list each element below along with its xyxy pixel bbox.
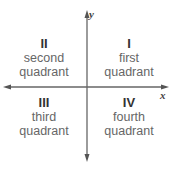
quadrant-name-line2: quadrant <box>9 124 79 138</box>
x-axis-left-arrow-icon <box>3 85 11 90</box>
quadrant-iii: III third quadrant <box>9 96 79 138</box>
quadrant-name-line1: fourth <box>94 110 164 124</box>
quadrant-name-line1: third <box>9 110 79 124</box>
quadrant-numeral: I <box>94 37 164 51</box>
quadrant-ii: II second quadrant <box>9 37 79 79</box>
quadrant-name-line2: quadrant <box>94 124 164 138</box>
y-axis-bottom-arrow-icon <box>85 154 90 162</box>
quadrant-iv: IV fourth quadrant <box>94 96 164 138</box>
quadrant-numeral: III <box>9 96 79 110</box>
quadrant-i: I first quadrant <box>94 37 164 79</box>
quadrant-name-line1: first <box>94 51 164 65</box>
quadrant-name-line2: quadrant <box>9 65 79 79</box>
quadrant-name-line2: quadrant <box>94 65 164 79</box>
quadrant-name-line1: second <box>9 51 79 65</box>
quadrant-numeral: II <box>9 37 79 51</box>
y-axis-label: y <box>89 8 94 20</box>
quadrant-numeral: IV <box>94 96 164 110</box>
coordinate-axes <box>0 0 174 174</box>
